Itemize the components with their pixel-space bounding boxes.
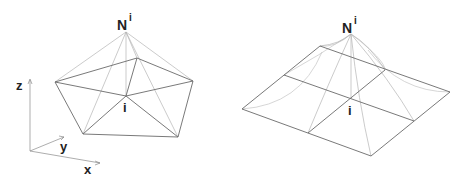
apex-label-N: N (342, 20, 352, 36)
mesh-outline (242, 46, 450, 156)
node-label-i: i (348, 103, 352, 118)
shape-function-diagram: z y x N i i (0, 0, 464, 180)
apex-superscript-i: i (129, 12, 132, 23)
x-axis-label: x (84, 162, 92, 177)
y-axis (30, 137, 64, 151)
apex-superscript-i: i (354, 15, 357, 26)
quad-mesh (242, 46, 450, 156)
apex-edges (308, 34, 414, 156)
coordinate-axes: z y x (16, 78, 100, 177)
left-panel-pyramid: z y x N i i (16, 12, 193, 177)
node-label-i: i (123, 100, 127, 115)
apex-label-N: N (117, 17, 127, 33)
z-axis-label: z (16, 78, 23, 93)
y-axis-label: y (60, 139, 68, 154)
x-arrow-icon (95, 161, 100, 165)
right-panel-grid: N i i (242, 15, 450, 156)
